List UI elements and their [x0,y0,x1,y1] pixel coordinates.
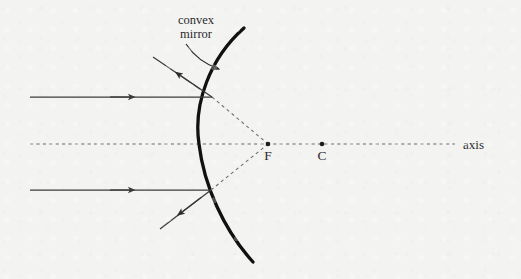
convex-mirror-figure: axis F C convex mirror [0,0,521,279]
ray-diagram-canvas: axis F C convex mirror [0,0,521,279]
virtual-ray-upper [212,97,268,144]
center-of-curvature-dot [320,142,325,147]
focal-point-label: F [264,148,272,163]
focal-point-dot [266,142,271,147]
reflected-ray-upper-arrowhead [176,73,200,90]
axis-label: axis [463,137,484,152]
convex-mirror-label-line2: mirror [180,27,213,41]
virtual-ray-lower [211,144,268,190]
center-of-curvature-label: C [317,148,326,163]
reflected-ray-lower-arrowhead [178,198,201,216]
convex-mirror-label-line1: convex [178,13,215,27]
